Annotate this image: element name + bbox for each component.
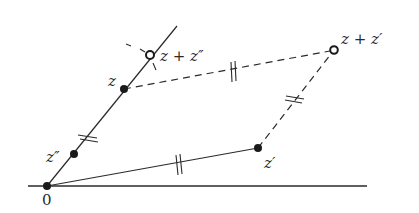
point-z-plus-z-prime — [330, 46, 338, 54]
dashed-z-to-sum — [124, 51, 330, 89]
point-origin — [43, 182, 51, 190]
tick-mark-z-to-sum — [231, 61, 236, 82]
point-z-plus-z-double-prime — [146, 51, 154, 59]
label-z-prime: z′ — [263, 154, 276, 172]
label-z-double-prime: z″ — [45, 148, 60, 166]
point-z-double-prime — [70, 150, 78, 158]
dashed-z-prime-to-sum — [258, 54, 331, 148]
point-z-prime — [254, 144, 262, 152]
tick-mark-origin-z-prime — [176, 154, 182, 175]
tick-mark-ray — [78, 135, 98, 142]
label-origin: 0 — [42, 191, 52, 209]
label-z-plus-z-double-prime: z + z″ — [159, 47, 204, 65]
tick-mark-z-prime-to-sum — [285, 96, 304, 103]
ray-through-z — [47, 26, 177, 186]
segment-origin-to-z-prime — [47, 148, 258, 186]
label-z: z — [107, 72, 116, 90]
parallelogram-diagram: 0 z″ z z′ z + z′ z + z″ — [0, 0, 419, 213]
point-z — [120, 85, 128, 93]
label-z-plus-z-prime: z + z′ — [340, 30, 383, 48]
